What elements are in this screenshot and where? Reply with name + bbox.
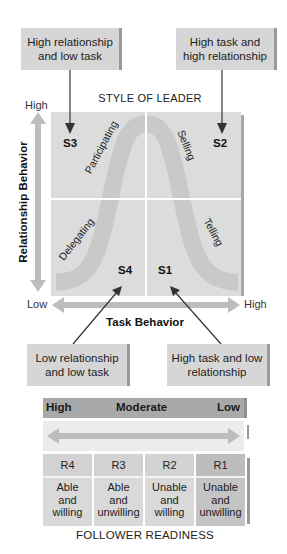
- quadrant-s3: S3: [63, 137, 77, 149]
- readiness-desc-line: Able: [94, 481, 143, 494]
- quadrant-s1: S1: [158, 264, 172, 276]
- readiness-description: Able and willing: [43, 478, 92, 526]
- callout-low-relationship-low-task: Low relationship and low task: [27, 344, 127, 386]
- readiness-desc-line: willing: [43, 506, 92, 519]
- readiness-description: Able and unwilling: [94, 478, 143, 526]
- readiness-description: Unable and willing: [145, 478, 194, 526]
- callout-text: High task and low relationship: [170, 351, 264, 379]
- readiness-moderate-label: Moderate: [116, 401, 167, 413]
- y-axis-title: Relationship Behavior: [17, 132, 29, 272]
- readiness-desc-line: unwilling: [94, 506, 143, 519]
- readiness-desc-line: Unable: [145, 481, 194, 494]
- readiness-description: Unable and unwilling: [196, 478, 245, 526]
- readiness-code: R1: [196, 454, 245, 478]
- readiness-band-shadow: [247, 425, 249, 439]
- readiness-level-r3: R3 Able and unwilling: [94, 454, 143, 526]
- follower-readiness-title: FOLLOWER READINESS: [50, 529, 240, 541]
- readiness-scale-header: High Moderate Low: [43, 398, 244, 418]
- readiness-desc-line: and: [94, 494, 143, 507]
- quadrant-s2: S2: [213, 137, 227, 149]
- leadership-quadrant-chart: [0, 0, 287, 400]
- readiness-desc-line: and: [145, 494, 194, 507]
- double-arrow-icon: [43, 421, 244, 451]
- readiness-level-r4: R4 Able and willing: [43, 454, 92, 526]
- readiness-code: R4: [43, 454, 92, 478]
- quadrant-s4: S4: [118, 264, 132, 276]
- readiness-desc-line: Unable: [196, 481, 245, 494]
- readiness-table-shadow: [247, 458, 250, 524]
- readiness-desc-line: Able: [43, 481, 92, 494]
- readiness-desc-line: and: [196, 494, 245, 507]
- x-axis-low-label: Low: [27, 298, 47, 310]
- readiness-high-label: High: [46, 401, 72, 413]
- readiness-code: R3: [94, 454, 143, 478]
- callout-text: Low relationship and low task: [31, 351, 123, 379]
- readiness-low-label: Low: [217, 401, 240, 413]
- readiness-desc-line: and: [43, 494, 92, 507]
- readiness-level-r1: R1 Unable and unwilling: [196, 454, 245, 526]
- readiness-code: R2: [145, 454, 194, 478]
- x-axis-title: Task Behavior: [90, 316, 200, 328]
- readiness-desc-line: unwilling: [196, 506, 245, 519]
- callout-high-task-low-relationship: High task and low relationship: [167, 344, 267, 386]
- readiness-desc-line: willing: [145, 506, 194, 519]
- readiness-arrow-band: [43, 421, 244, 451]
- readiness-level-r2: R2 Unable and willing: [145, 454, 194, 526]
